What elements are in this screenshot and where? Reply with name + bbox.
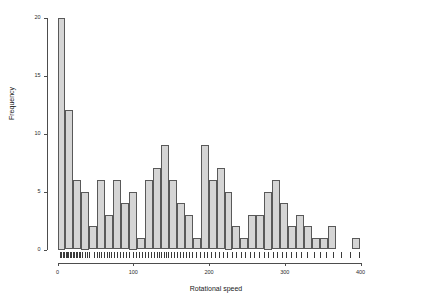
rug-tick <box>301 252 302 258</box>
histogram-bar <box>328 226 336 249</box>
histogram-bar <box>121 203 129 249</box>
rug-tick <box>211 252 212 258</box>
x-axis-tick <box>58 263 59 266</box>
histogram-bar <box>288 226 296 249</box>
histogram-bar <box>352 238 360 250</box>
rug-tick <box>286 252 287 258</box>
y-axis-line <box>47 18 48 250</box>
x-axis-tick <box>133 263 134 266</box>
y-axis-tick <box>44 134 47 135</box>
rug-tick <box>245 252 246 258</box>
rug-tick <box>82 252 83 258</box>
rug-tick <box>227 252 228 258</box>
rug-tick <box>154 252 155 258</box>
rug-tick <box>159 252 160 258</box>
histogram-bar <box>97 180 105 250</box>
rug-tick <box>180 252 181 258</box>
rug-tick <box>232 252 233 258</box>
rug-tick <box>117 252 118 258</box>
x-axis-tick <box>361 263 362 266</box>
histogram-bar <box>105 215 113 250</box>
histogram-bar <box>73 180 81 250</box>
rug-tick <box>94 252 95 258</box>
rug-tick <box>89 252 90 258</box>
histogram-bar <box>320 238 328 250</box>
rug-tick <box>145 252 146 258</box>
rug-tick <box>200 252 201 258</box>
y-axis-tick-label: 0 <box>18 247 41 253</box>
rug-tick <box>264 252 265 258</box>
rug-tick <box>139 252 140 258</box>
histogram-bar <box>304 226 312 249</box>
histogram-bar <box>137 238 145 250</box>
y-axis-tick-label: 20 <box>18 15 41 21</box>
rug-tick <box>282 252 283 258</box>
histogram-bar <box>240 238 248 250</box>
rug-tick <box>236 252 237 258</box>
x-axis-title: Rotational speed <box>0 285 432 292</box>
x-axis-tick-label: 100 <box>118 270 148 276</box>
histogram-bar <box>296 215 304 250</box>
rug-tick <box>87 252 88 258</box>
rug-tick <box>120 252 121 258</box>
rug-tick <box>99 252 100 258</box>
y-axis-tick <box>44 192 47 193</box>
histogram-bar <box>256 215 264 250</box>
histogram-bar <box>161 145 169 249</box>
histogram-bar <box>225 192 233 250</box>
rug-tick <box>166 252 167 258</box>
rug-tick <box>133 252 134 258</box>
rug-tick <box>126 252 127 258</box>
rug-tick <box>177 252 178 258</box>
rug-tick <box>196 252 197 258</box>
rug-tick <box>111 252 112 258</box>
rug-tick <box>80 252 81 258</box>
rug-tick <box>268 252 269 258</box>
y-axis-tick <box>44 18 47 19</box>
histogram-bar <box>280 203 288 249</box>
rug-tick <box>157 252 158 258</box>
rug-tick <box>254 252 255 258</box>
y-axis-tick-label: 15 <box>18 73 41 79</box>
rug-tick <box>171 252 172 258</box>
x-axis-tick <box>285 263 286 266</box>
histogram-bar <box>185 215 193 250</box>
histogram-bar <box>272 180 280 250</box>
histogram-bar <box>153 168 161 249</box>
rug-tick <box>136 252 137 258</box>
rug-tick <box>259 252 260 258</box>
histogram-bar <box>113 180 121 250</box>
histogram-bar <box>65 110 73 249</box>
histogram-bar <box>232 226 240 249</box>
rug-tick <box>359 252 360 258</box>
histogram-bar <box>193 238 201 250</box>
rug-tick <box>129 252 130 258</box>
histogram-bar <box>169 180 177 250</box>
rug-tick <box>241 252 242 258</box>
rug-tick <box>183 252 184 258</box>
histogram-figure: 05101520 0100200300400 Frequency Rotatio… <box>0 0 432 306</box>
y-axis-title: Frequency <box>8 87 15 120</box>
histogram-bar <box>264 192 272 250</box>
rug-tick <box>296 252 297 258</box>
rug-tick <box>204 252 205 258</box>
x-axis-tick-label: 300 <box>270 270 300 276</box>
rug-tick <box>250 252 251 258</box>
histogram-bar <box>89 226 97 249</box>
histogram-bar <box>312 238 320 250</box>
rug-tick <box>174 252 175 258</box>
histogram-bar <box>201 145 209 249</box>
rug-tick <box>215 252 216 258</box>
histogram-bar <box>177 203 185 249</box>
rug-tick <box>341 252 342 258</box>
y-axis-tick <box>44 250 47 251</box>
histogram-bar <box>248 215 256 250</box>
rug-tick <box>273 252 274 258</box>
rug-tick <box>123 252 124 258</box>
rug-tick <box>142 252 143 258</box>
histogram-bar <box>217 168 225 249</box>
x-axis-tick-label: 400 <box>346 270 376 276</box>
rug-tick <box>148 252 149 258</box>
rug-tick <box>291 252 292 258</box>
histogram-bar <box>145 180 153 250</box>
